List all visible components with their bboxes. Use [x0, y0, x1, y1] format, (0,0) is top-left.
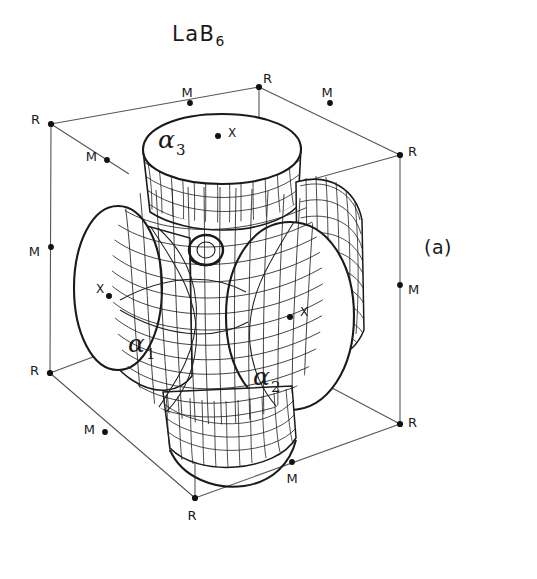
symmetry-point-label: M: [408, 282, 419, 297]
symmetry-point-dot: [47, 370, 53, 376]
symmetry-point-label: M: [321, 85, 332, 100]
symmetry-point-label: R: [408, 144, 417, 159]
symmetry-point-dot: [104, 157, 110, 163]
symmetry-point-dot: [48, 244, 54, 250]
symmetry-point-r: R: [397, 144, 417, 159]
symmetry-point-label: M: [84, 422, 95, 437]
sheet-label-symbol: α: [253, 362, 270, 391]
fermi-surface-figure: LaB6 (a): [0, 0, 537, 579]
symmetry-point-m: M: [321, 85, 333, 106]
symmetry-point-label: M: [86, 149, 97, 164]
symmetry-point-m: M: [181, 85, 193, 106]
symmetry-point-label: X: [228, 126, 236, 140]
sheet-label-symbol: α: [158, 125, 175, 154]
sheet-label-subscript: 1: [146, 345, 156, 363]
symmetry-point-label: M: [181, 85, 192, 100]
symmetry-point-dot: [397, 152, 403, 158]
symmetry-point-label: R: [263, 71, 272, 86]
symmetry-point-dot: [397, 421, 403, 427]
symmetry-point-label: R: [408, 415, 417, 430]
symmetry-point-dot: [256, 84, 262, 90]
symmetry-point-m: M: [286, 459, 297, 485]
symmetry-point-dot: [327, 100, 333, 106]
symmetry-point-dot: [215, 133, 221, 139]
fermi-surface-drawing: RRRRRR MMMMMMM XXX α1α2α3: [0, 0, 537, 579]
symmetry-point-dot: [102, 429, 108, 435]
symmetry-point-dot: [289, 459, 295, 465]
symmetry-point-label: X: [96, 282, 104, 296]
symmetry-point-label: M: [29, 244, 40, 259]
symmetry-point-label: R: [187, 508, 196, 523]
symmetry-point-label: R: [31, 112, 40, 127]
symmetry-point-dot: [187, 100, 193, 106]
sheet-label-subscript: 3: [176, 141, 186, 159]
symmetry-point-r: R: [256, 71, 272, 91]
symmetry-point-dot: [106, 293, 112, 299]
symmetry-point-r: R: [31, 112, 54, 128]
symmetry-point-dot: [287, 314, 293, 320]
symmetry-point-m: M: [86, 149, 110, 164]
neck-bottom-fill: [163, 386, 296, 467]
symmetry-point-dot: [192, 495, 198, 501]
symmetry-point-label: M: [286, 471, 297, 486]
symmetry-point-r: R: [187, 495, 198, 523]
symmetry-point-m: M: [84, 422, 108, 437]
symmetry-point-label: X: [300, 305, 308, 319]
symmetry-point-label: R: [30, 363, 39, 378]
sheet-label-subscript: 2: [271, 378, 281, 396]
symmetry-point-dot: [48, 121, 54, 127]
sheet-label-symbol: α: [128, 329, 145, 358]
symmetry-point-dot: [397, 282, 403, 288]
